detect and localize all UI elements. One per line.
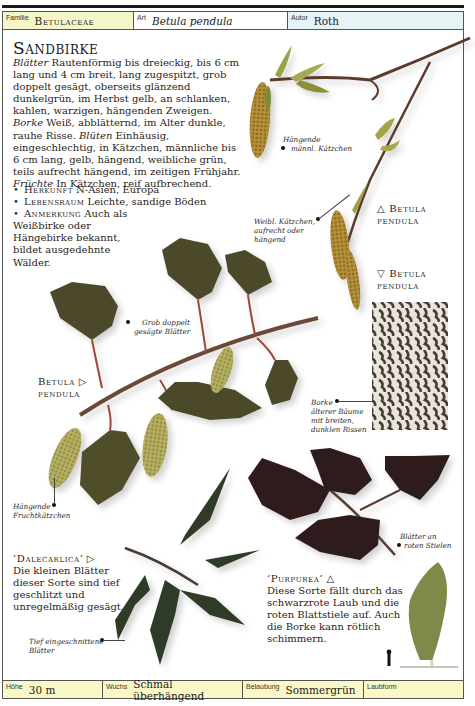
species-label-upper: △ Betula pendula — [377, 203, 426, 227]
blueten-key: Blüten — [79, 130, 112, 141]
caption-borke: Borke älterer Bäume mit breiten, dunklen… — [311, 398, 367, 434]
anmerkung-continuation: Weißbirke oder Hängebirke bekannt, bilde… — [13, 220, 133, 268]
leader-line — [54, 478, 55, 503]
variety-name: ‘Purpurea’ — [267, 573, 323, 584]
triangle-up-icon: △ — [326, 573, 334, 584]
bullet-key: Lebensraum — [24, 196, 84, 207]
leader-line — [338, 401, 374, 402]
species-label-bark: ▽ Betula pendula — [377, 268, 426, 292]
belaubung-cell: Belaubung Sommergrün — [243, 681, 364, 698]
variety-purpurea: ‘Purpurea’ △ Diese Sorte fällt durch das… — [267, 573, 403, 646]
bullet-icon: • — [13, 184, 24, 196]
fact-bullets: • Herkunft N-Asien, Europa • Lebensraum … — [13, 184, 241, 269]
wuchs-cell: Wuchs Schmal überhängend — [103, 681, 243, 698]
caption-fruchtkaetzchen: Hängende Fruchtkätzchen — [13, 502, 70, 520]
bullet-key: Herkunft — [24, 184, 73, 195]
hoehe-cell: Höhe 30 m — [3, 681, 103, 698]
belaubung-label: Belaubung — [246, 683, 279, 690]
upper-twig-illustration — [247, 38, 470, 311]
caption-tief-eingeschnitten: Tief eingeschnittene Blätter — [29, 637, 104, 655]
species-description: Blätter Rautenförmig bis dreieckig, bis … — [13, 57, 241, 190]
caption-roten-stielen: Blätter an roten Stielen — [396, 532, 451, 550]
bullet-herkunft: • Herkunft N-Asien, Europa — [13, 184, 241, 196]
wuchs-value: Schmal überhängend — [133, 678, 242, 702]
caption-weibl-kaetzchen: Weibl. Kätzchen, aufrecht oder hängend — [254, 217, 315, 244]
species-label-branch: Betula ▷ pendula — [38, 376, 87, 400]
triangle-right-icon: ▷ — [79, 376, 87, 387]
page-title: Sandbirke — [13, 38, 98, 58]
wuchs-label: Wuchs — [106, 683, 127, 690]
bullet-icon: • — [13, 196, 24, 208]
leader-dot — [126, 320, 130, 324]
caption-grob-gesaegt: Grob doppelt gesägte Blätter — [134, 318, 190, 336]
variety-text: Diese Sorte fällt durch das schwarzrote … — [267, 585, 403, 645]
triangle-up-icon: △ — [377, 203, 385, 214]
bullet-key: Anmerkung — [24, 208, 81, 219]
bullet-lebensraum: • Lebensraum Leichte, sandige Böden — [13, 196, 241, 208]
hoehe-value: 30 m — [29, 684, 56, 696]
belaubung-value: Sommergrün — [285, 684, 355, 696]
laubform-cell: Laubform — [364, 681, 463, 698]
footer-bar: Höhe 30 m Wuchs Schmal überhängend Belau… — [2, 680, 464, 699]
leader-line — [103, 640, 125, 641]
bullet-text: Auch als — [81, 208, 127, 219]
bullet-anmerkung: • Anmerkung Auch als — [13, 208, 241, 220]
leader-dot — [397, 543, 401, 547]
triangle-right-icon: ▷ — [87, 553, 95, 564]
variety-text: Die kleinen Blätter dieser Sorte sind ti… — [13, 565, 125, 613]
blaetter-key: Blätter — [13, 57, 48, 68]
bullet-text: N-Asien, Europa — [73, 184, 159, 195]
bullet-text: Leichte, sandige Böden — [84, 196, 206, 207]
bark-illustration — [372, 302, 448, 430]
leader-dot — [52, 503, 56, 507]
laubform-label: Laubform — [367, 683, 397, 690]
triangle-down-icon: ▽ — [377, 268, 385, 279]
variety-dalecarlica: ‘Dalecarlica’ ▷ Die kleinen Blätter dies… — [13, 553, 125, 613]
dalecarlica-leaves-illustration — [115, 468, 260, 665]
caption-maennl-kaetzchen: Hängende männl. Kätzchen — [283, 135, 352, 153]
bullet-icon: • — [13, 208, 24, 220]
variety-name: ‘Dalecarlica’ — [13, 553, 84, 564]
leader-dot — [281, 146, 285, 150]
borke-key: Borke — [13, 117, 43, 128]
hoehe-label: Höhe — [6, 683, 23, 690]
